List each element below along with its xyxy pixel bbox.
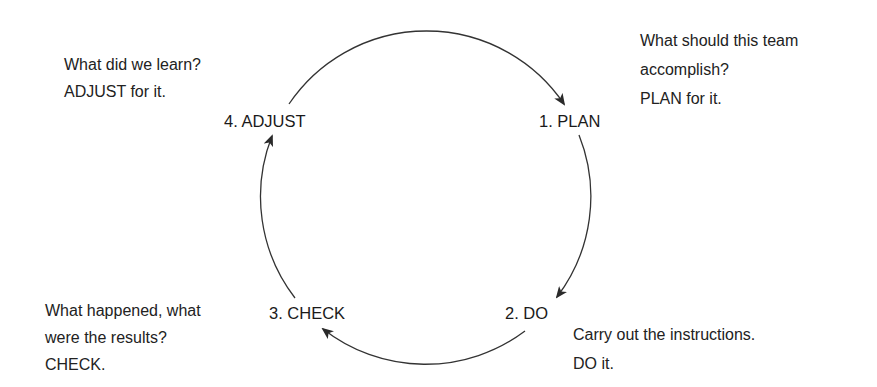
stage-label-do: 2. DO	[505, 303, 548, 323]
description-line: CHECK.	[45, 351, 201, 378]
arrow-plan-to-do	[557, 135, 591, 297]
stage-label-check: 3. CHECK	[269, 303, 345, 323]
arrow-check-to-adjust	[261, 136, 295, 298]
description-line: accomplish?	[640, 55, 798, 84]
description-line: PLAN for it.	[640, 84, 798, 113]
stage-label-adjust: 4. ADJUST	[224, 111, 306, 131]
description-line: What happened, what	[45, 297, 201, 324]
description-do: Carry out the instructions. DO it.	[573, 320, 755, 378]
arrow-do-to-check	[323, 329, 525, 364]
description-line: ADJUST for it.	[64, 78, 201, 105]
description-check: What happened, what were the results? CH…	[45, 297, 201, 378]
description-line: were the results?	[45, 324, 201, 351]
description-line: DO it.	[573, 349, 755, 378]
description-line: Carry out the instructions.	[573, 320, 755, 349]
stage-label-plan: 1. PLAN	[539, 111, 600, 131]
arrow-adjust-to-plan	[289, 31, 564, 104]
description-line: What should this team	[640, 26, 798, 55]
description-plan: What should this team accomplish? PLAN f…	[640, 26, 798, 113]
description-line: What did we learn?	[64, 51, 201, 78]
description-adjust: What did we learn? ADJUST for it.	[64, 51, 201, 105]
